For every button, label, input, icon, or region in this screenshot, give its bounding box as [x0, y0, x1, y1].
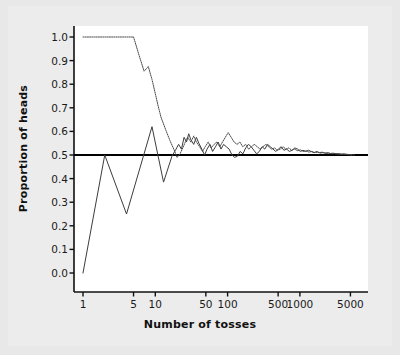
- plot-area: [74, 26, 368, 292]
- y-tick-label: 0.1: [42, 244, 68, 254]
- y-tick-label: 0.9: [42, 56, 68, 66]
- y-tick-label: 0.0: [42, 268, 68, 278]
- y-tick-label: 0.8: [42, 79, 68, 89]
- x-tick-label: 1000: [287, 298, 314, 310]
- x-tick-label: 5000: [337, 298, 364, 310]
- x-tick-label: 100: [218, 298, 238, 310]
- y-tick-label: 0.5: [42, 150, 68, 160]
- y-tick-label: 0.3: [42, 197, 68, 207]
- y-axis-tick-labels: 0.00.10.20.30.40.50.60.70.80.91.0: [36, 0, 68, 355]
- coin-toss-proportion-figure: 0.00.10.20.30.40.50.60.70.80.91.0 Propor…: [0, 0, 400, 355]
- x-axis-title: Number of tosses: [0, 318, 400, 331]
- y-tick-label: 0.6: [42, 126, 68, 136]
- x-tick-label: 5: [130, 298, 137, 310]
- y-tick-label: 0.7: [42, 103, 68, 113]
- y-axis-title: Proportion of heads: [17, 74, 30, 224]
- x-tick-label: 1: [80, 298, 87, 310]
- y-tick-label: 1.0: [42, 32, 68, 42]
- y-tick-label: 0.4: [42, 174, 68, 184]
- x-tick-label: 10: [149, 298, 162, 310]
- y-tick-label: 0.2: [42, 221, 68, 231]
- x-tick-label: 50: [199, 298, 212, 310]
- x-tick-label: 500: [268, 298, 288, 310]
